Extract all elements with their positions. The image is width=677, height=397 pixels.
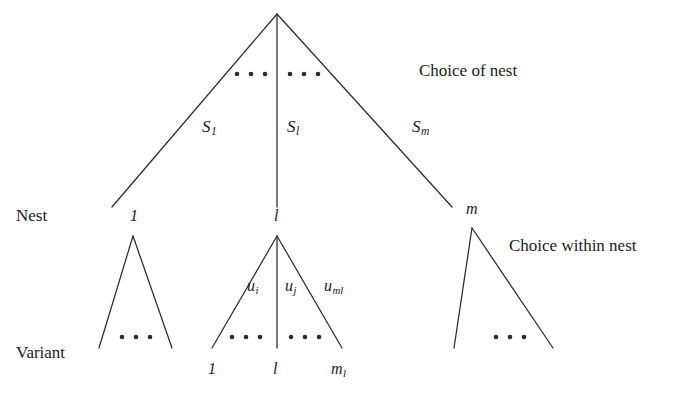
row-label-nest: Nest — [16, 207, 47, 224]
utility-label-uml-base: u — [324, 277, 332, 294]
nest-node-l: l — [274, 208, 279, 226]
side-label-choice-within-nest: Choice within nest — [509, 237, 636, 254]
row-label-variant: Variant — [16, 344, 65, 361]
ellipsis-dot — [230, 335, 235, 340]
root-branch-right — [277, 14, 452, 207]
ellipsis-dot — [289, 335, 294, 340]
ellipsis-dot — [494, 335, 499, 340]
utility-label-ui-sub: i — [256, 284, 259, 296]
utility-label-ui-base: u — [247, 277, 255, 294]
utility-label-uj-sub: j — [294, 284, 297, 296]
branch-label-sl-base: S — [287, 117, 296, 136]
branch-label-sm-base: S — [412, 117, 421, 136]
variant-node-l-base: l — [273, 360, 277, 377]
branch-label-s1-base: S — [202, 117, 211, 136]
variant-node-ml-sub: l — [343, 367, 346, 379]
utility-label-uj: uj — [285, 278, 297, 296]
branch-label-sm-sub: m — [421, 125, 429, 138]
branch-label-sl-sub: l — [296, 125, 299, 138]
utility-label-uml: uml — [324, 278, 343, 296]
variant-node-ml-base: m — [331, 360, 343, 377]
nestm-branch-left — [454, 228, 472, 348]
branch-label-s1: S1 — [202, 118, 217, 138]
ellipsis-dot — [508, 335, 513, 340]
branch-label-sm: Sm — [412, 118, 429, 138]
nest-node-m-base: m — [466, 200, 478, 217]
nest-node-1: 1 — [130, 208, 139, 226]
figure-canvas: Nest Variant Choice of nest Choice withi… — [0, 0, 677, 397]
variant-node-1: 1 — [208, 361, 217, 379]
ellipsis-dot — [235, 72, 240, 77]
tree-diagram-svg — [0, 0, 677, 397]
ellipsis-dot — [258, 335, 263, 340]
ellipsis-dot — [244, 335, 249, 340]
nest1-branch-left — [99, 236, 133, 348]
nestl-branch-left — [212, 236, 277, 348]
ellipsis-dot — [148, 335, 153, 340]
branch-label-sl: Sl — [287, 118, 299, 138]
variant-node-1-base: 1 — [208, 360, 216, 377]
ellipsis-dot — [134, 335, 139, 340]
ellipsis-dot — [249, 72, 254, 77]
utility-label-uml-sub: ml — [333, 284, 344, 296]
side-label-choice-of-nest: Choice of nest — [419, 62, 517, 79]
utility-label-ui: ui — [247, 278, 259, 296]
variant-node-l: l — [273, 361, 278, 379]
ellipsis-dot — [120, 335, 125, 340]
nest-node-m: m — [466, 201, 478, 219]
ellipsis-dot — [263, 72, 268, 77]
ellipsis-dot — [303, 335, 308, 340]
branch-label-s1-sub: 1 — [211, 125, 217, 138]
nest-node-l-base: l — [274, 207, 278, 224]
ellipsis-dot — [288, 72, 293, 77]
nest-node-1-base: 1 — [130, 207, 138, 224]
utility-label-uj-base: u — [285, 277, 293, 294]
ellipsis-dot — [302, 72, 307, 77]
ellipsis-dot — [317, 335, 322, 340]
ellipsis-dot — [522, 335, 527, 340]
root-branch-left — [112, 14, 277, 207]
nest1-branch-right — [133, 236, 172, 348]
variant-node-ml: ml — [331, 361, 346, 379]
ellipsis-dot — [316, 72, 321, 77]
